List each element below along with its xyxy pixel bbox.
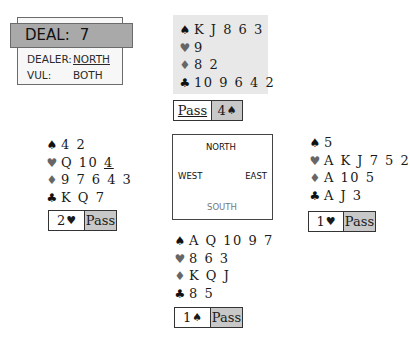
east-bid-box: 1♥ Pass	[308, 211, 376, 232]
east-spades: ♠5	[308, 134, 410, 152]
east-bid-2-label: Pass	[345, 212, 374, 231]
west-bid-1-level: 2	[57, 211, 65, 230]
south-hearts: ♥8 6 3	[173, 250, 274, 268]
east-spades-cards: 5	[324, 135, 334, 150]
west-diamonds: ♦9 7 6 4 3	[45, 171, 132, 189]
north-clubs-cards: 10 9 6 4 2	[194, 75, 275, 90]
deal-label: DEAL:	[25, 26, 70, 44]
compass-south: SOUTH	[207, 202, 237, 212]
compass-east: EAST	[245, 171, 267, 181]
west-hearts-lead-card: 4	[104, 155, 114, 170]
south-bid-1-level: 1	[183, 308, 191, 327]
east-hearts-cards: A K J 7 5 2	[324, 153, 410, 168]
east-clubs-cards: A J 3	[324, 188, 363, 203]
club-icon: ♣	[308, 188, 322, 206]
west-clubs-cards: K Q 7	[61, 190, 105, 205]
heart-icon: ♥	[66, 211, 76, 230]
spade-icon: ♠	[192, 308, 202, 327]
south-bid-2[interactable]: Pass	[211, 308, 242, 327]
east-bid-1-level: 1	[316, 212, 324, 231]
north-hearts-cards: 9	[194, 40, 204, 55]
compass-table: NORTH WEST EAST SOUTH	[172, 134, 273, 220]
south-bid-1[interactable]: 1♠	[175, 308, 211, 327]
heart-icon: ♥	[308, 153, 322, 171]
east-bid-1[interactable]: 1♥	[309, 212, 344, 231]
north-hearts: ♥9	[178, 39, 268, 57]
east-hearts: ♥A K J 7 5 2	[308, 152, 410, 170]
compass-north: NORTH	[206, 142, 236, 152]
south-diamonds-cards: K Q J	[189, 268, 230, 283]
north-diamonds-cards: 8 2	[194, 57, 219, 72]
south-spades-cards: A Q 10 9 7	[189, 233, 274, 248]
west-spades-cards: 4 2	[61, 137, 86, 152]
spade-icon: ♠	[173, 233, 187, 251]
heart-icon: ♥	[173, 251, 187, 269]
west-hearts-cards: Q 10	[61, 155, 104, 170]
compass-west: WEST	[178, 171, 202, 181]
north-clubs: ♣10 9 6 4 2	[178, 74, 268, 92]
dealer-value: NORTH	[73, 53, 110, 65]
north-bid-2-level: 4	[217, 101, 225, 120]
east-bid-2[interactable]: Pass	[344, 212, 375, 231]
spade-icon: ♠	[308, 135, 322, 153]
south-bid-2-label: Pass	[212, 308, 241, 327]
east-hand: ♠5 ♥A K J 7 5 2 ♦A 10 5 ♣A J 3	[308, 134, 410, 204]
heart-icon: ♥	[326, 212, 336, 231]
spade-icon: ♠	[227, 101, 237, 120]
north-hand: ♠K J 8 6 3 ♥9 ♦8 2 ♣10 9 6 4 2	[173, 15, 268, 94]
north-diamonds: ♦8 2	[178, 56, 268, 74]
south-hearts-cards: 8 6 3	[189, 251, 230, 266]
spade-icon: ♠	[45, 137, 59, 155]
west-bid-1[interactable]: 2♥	[49, 211, 85, 230]
south-clubs-cards: 8 5	[189, 286, 214, 301]
north-spades-cards: K J 8 6 3	[194, 22, 264, 37]
west-clubs: ♣K Q 7	[45, 189, 132, 207]
north-bid-2[interactable]: 4♠	[212, 101, 242, 120]
south-hand: ♠A Q 10 9 7 ♥8 6 3 ♦K Q J ♣8 5	[173, 232, 274, 302]
diamond-icon: ♦	[178, 57, 192, 75]
north-bid-box: Pass 4♠	[173, 100, 243, 121]
north-bid-1-label: Pass	[178, 101, 207, 120]
heart-icon: ♥	[45, 155, 59, 173]
club-icon: ♣	[178, 75, 192, 93]
heart-icon: ♥	[178, 40, 192, 58]
deal-details: DEALER:NORTH VUL:BOTH	[27, 51, 110, 83]
west-hearts: ♥Q 10 4	[45, 154, 132, 172]
vul-value: BOTH	[73, 69, 103, 81]
vul-label: VUL:	[27, 67, 73, 83]
west-bid-2[interactable]: Pass	[85, 211, 116, 230]
south-diamonds: ♦K Q J	[173, 267, 274, 285]
diamond-icon: ♦	[173, 268, 187, 286]
diamond-icon: ♦	[45, 172, 59, 190]
east-diamonds: ♦A 10 5	[308, 169, 410, 187]
club-icon: ♣	[45, 190, 59, 208]
west-spades: ♠4 2	[45, 136, 132, 154]
west-diamonds-cards: 9 7 6 4 3	[61, 172, 132, 187]
diamond-icon: ♦	[308, 170, 322, 188]
north-spades: ♠K J 8 6 3	[178, 21, 268, 39]
east-diamonds-cards: A 10 5	[324, 170, 375, 185]
west-hand: ♠4 2 ♥Q 10 4 ♦9 7 6 4 3 ♣K Q 7	[45, 136, 132, 206]
deal-header: DEAL:7	[10, 23, 133, 48]
north-bid-1[interactable]: Pass	[174, 101, 212, 120]
south-clubs: ♣8 5	[173, 285, 274, 303]
spade-icon: ♠	[178, 22, 192, 40]
west-bid-box: 2♥ Pass	[48, 210, 117, 231]
club-icon: ♣	[173, 286, 187, 304]
deal-number: 7	[80, 26, 90, 44]
south-bid-box: 1♠ Pass	[174, 307, 243, 328]
dealer-label: DEALER:	[27, 51, 73, 67]
south-spades: ♠A Q 10 9 7	[173, 232, 274, 250]
east-clubs: ♣A J 3	[308, 187, 410, 205]
west-bid-2-label: Pass	[86, 211, 115, 230]
